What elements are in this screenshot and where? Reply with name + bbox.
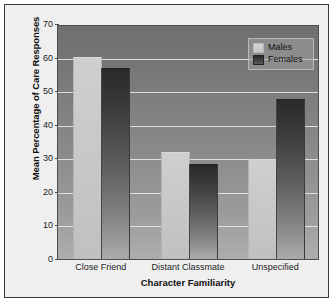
legend-item-females: Females xyxy=(253,54,309,65)
y-axis-tick-labels: 010203040506070 xyxy=(15,25,53,260)
y-axis-tick-label: 30 xyxy=(21,154,53,163)
bar-females-unspecified xyxy=(276,99,305,259)
figure-frame: Mean Percentage of Care Responses 010203… xyxy=(4,4,329,298)
legend-swatch-females-icon xyxy=(253,55,264,65)
y-axis-tick-label: 20 xyxy=(21,188,53,197)
x-axis-tick-label: Close Friend xyxy=(57,263,144,273)
y-axis-tick-label: 40 xyxy=(21,121,53,130)
bar-males-unspecified xyxy=(248,159,277,259)
gridline xyxy=(58,25,318,26)
y-axis-tick-label: 60 xyxy=(21,54,53,63)
bar-females-close-friend xyxy=(101,68,130,259)
legend-label-females: Females xyxy=(268,55,303,64)
legend-label-males: Males xyxy=(268,43,292,52)
bar-males-distant-classmate xyxy=(161,152,190,259)
y-axis-tick-label: 50 xyxy=(21,87,53,96)
y-axis-tick-label: 10 xyxy=(21,221,53,230)
bar-males-close-friend xyxy=(73,57,102,259)
x-axis-tick-labels: Close FriendDistant ClassmateUnspecified xyxy=(57,263,319,277)
plot-area: Males Females xyxy=(57,25,319,260)
bar-females-distant-classmate xyxy=(189,164,218,259)
x-axis-tick-label: Distant Classmate xyxy=(144,263,231,273)
x-axis-tick-label: Unspecified xyxy=(232,263,319,273)
y-axis-tick-label: 0 xyxy=(21,255,53,264)
legend-swatch-males-icon xyxy=(253,43,264,53)
legend-item-males: Males xyxy=(253,42,309,53)
x-axis-title: Character Familiarity xyxy=(57,277,319,288)
chart-legend: Males Females xyxy=(248,38,314,70)
y-axis-tick-label: 70 xyxy=(21,20,53,29)
